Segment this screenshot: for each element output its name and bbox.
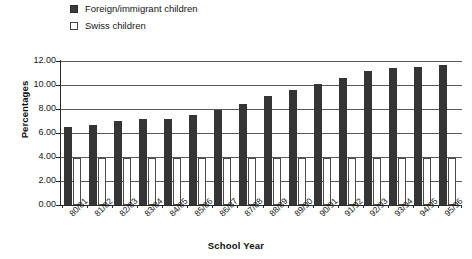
bar-foreign bbox=[414, 67, 422, 205]
bar-group bbox=[89, 61, 110, 205]
plot-area bbox=[61, 61, 462, 205]
bar-group bbox=[314, 61, 335, 205]
x-tick-mark bbox=[263, 205, 264, 208]
y-tick-label: 12.00 bbox=[4, 56, 56, 65]
y-tick-label: 4.00 bbox=[4, 152, 56, 161]
chart-legend: Foreign/immigrant children Swiss childre… bbox=[70, 1, 330, 35]
bar-foreign bbox=[189, 115, 197, 205]
bar-group bbox=[189, 61, 210, 205]
x-tick-mark bbox=[313, 205, 314, 208]
x-tick-mark bbox=[62, 205, 63, 208]
bar-group bbox=[364, 61, 385, 205]
bar-foreign bbox=[289, 90, 297, 205]
y-tick-label: 10.00 bbox=[4, 80, 56, 89]
bar-foreign bbox=[264, 96, 272, 205]
x-axis-ticks: 80/8181/8282/8383/8484/8585/8686/8787/88… bbox=[61, 205, 462, 245]
bar-group bbox=[339, 61, 360, 205]
bar-group bbox=[439, 61, 460, 205]
bar-foreign bbox=[164, 119, 172, 205]
bar-group bbox=[264, 61, 285, 205]
y-axis-ticks: 0.002.004.006.008.0010.0012.00 bbox=[0, 0, 56, 259]
legend-item-swiss: Swiss children bbox=[70, 18, 330, 33]
bar-foreign bbox=[89, 125, 97, 205]
bar-foreign bbox=[64, 127, 72, 205]
x-tick-mark bbox=[438, 205, 439, 208]
x-tick-mark bbox=[212, 205, 213, 208]
bar-group bbox=[164, 61, 185, 205]
chart-figure: Foreign/immigrant children Swiss childre… bbox=[0, 0, 472, 259]
y-tick-label: 6.00 bbox=[4, 128, 56, 137]
legend-item-foreign: Foreign/immigrant children bbox=[70, 1, 330, 16]
x-tick-mark bbox=[87, 205, 88, 208]
x-tick-mark bbox=[388, 205, 389, 208]
bar-foreign bbox=[439, 65, 447, 205]
bar-foreign bbox=[239, 104, 247, 205]
x-tick-mark bbox=[338, 205, 339, 208]
x-tick-mark bbox=[162, 205, 163, 208]
x-tick-mark bbox=[288, 205, 289, 208]
legend-swatch-hollow-square-icon bbox=[70, 22, 78, 30]
legend-label-foreign: Foreign/immigrant children bbox=[85, 3, 197, 14]
x-tick-mark bbox=[112, 205, 113, 208]
bar-foreign bbox=[364, 71, 372, 205]
x-tick-mark bbox=[413, 205, 414, 208]
y-tick-label: 0.00 bbox=[4, 200, 56, 209]
x-tick-mark bbox=[363, 205, 364, 208]
bar-group bbox=[139, 61, 160, 205]
bar-group bbox=[64, 61, 85, 205]
y-tick-label: 8.00 bbox=[4, 104, 56, 113]
x-tick-mark bbox=[187, 205, 188, 208]
bar-foreign bbox=[339, 78, 347, 205]
bar-foreign bbox=[314, 84, 322, 205]
bar-series-container bbox=[61, 61, 462, 205]
bar-group bbox=[114, 61, 135, 205]
bar-group bbox=[289, 61, 310, 205]
bar-foreign bbox=[389, 68, 397, 205]
bar-foreign bbox=[139, 119, 147, 205]
bar-group bbox=[389, 61, 410, 205]
bar-foreign bbox=[214, 110, 222, 205]
bar-group bbox=[214, 61, 235, 205]
legend-swatch-filled-square-icon bbox=[70, 5, 78, 13]
x-tick-mark bbox=[237, 205, 238, 208]
legend-label-swiss: Swiss children bbox=[85, 20, 146, 31]
x-tick-mark bbox=[137, 205, 138, 208]
bar-group bbox=[414, 61, 435, 205]
y-tick-label: 2.00 bbox=[4, 176, 56, 185]
x-axis-title: School Year bbox=[0, 240, 472, 251]
bar-group bbox=[239, 61, 260, 205]
bar-foreign bbox=[114, 121, 122, 205]
x-tick-mark bbox=[461, 205, 462, 208]
